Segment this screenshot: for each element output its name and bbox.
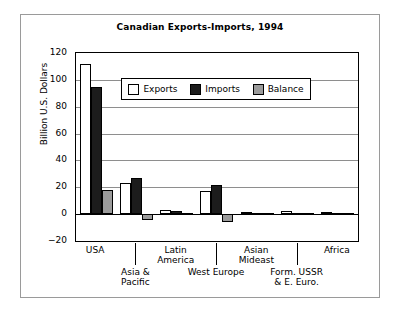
- x-axis-category-labels: USAAsia &PacificLatinAmericaWest EuropeA…: [75, 243, 359, 297]
- chart-figure: Canadian Exports-Imports, 1994 Billion U…: [20, 14, 380, 298]
- legend-label: Balance: [268, 84, 304, 94]
- y-tick-label: 80: [56, 101, 67, 111]
- bar-exports: [200, 191, 211, 214]
- y-axis-tick-labels: 120100806040200−20: [35, 52, 71, 242]
- y-tick-label: −20: [48, 235, 67, 245]
- x-category-label: Asia &Pacific: [121, 267, 150, 287]
- legend-item-imports: Imports: [190, 84, 240, 95]
- legend-swatch-balance-icon: [253, 84, 264, 95]
- bar-exports: [120, 183, 131, 214]
- bar-imports: [211, 185, 222, 215]
- bar-imports: [91, 87, 102, 215]
- x-category-label: Form. USSR& E. Euro.: [270, 267, 323, 287]
- legend-swatch-imports-icon: [190, 84, 201, 95]
- legend-label: Imports: [205, 84, 240, 94]
- y-tick-label: 120: [50, 47, 67, 57]
- legend-item-balance: Balance: [253, 84, 304, 95]
- y-tick-label: 0: [61, 208, 67, 218]
- legend-swatch-exports-icon: [128, 84, 139, 95]
- bar-group: [76, 53, 116, 241]
- x-category-label: LatinAmerica: [157, 245, 194, 265]
- bar-imports: [292, 213, 303, 215]
- bar-exports: [321, 212, 332, 214]
- bar-balance: [263, 213, 274, 215]
- chart-title: Canadian Exports-Imports, 1994: [21, 22, 379, 32]
- y-tick-label: 60: [56, 128, 67, 138]
- x-tick-mark: [135, 243, 136, 265]
- bar-imports: [171, 211, 182, 214]
- bar-imports: [332, 213, 343, 215]
- bar-balance: [182, 213, 193, 215]
- bar-exports: [160, 210, 171, 214]
- bar-exports: [241, 212, 252, 214]
- x-tick-mark: [216, 243, 217, 265]
- x-category-label: USA: [86, 245, 105, 255]
- x-category-label: Africa: [324, 245, 350, 255]
- x-category-label: AsianMideast: [239, 245, 274, 265]
- bar-imports: [131, 178, 142, 214]
- bar-group: [318, 53, 358, 241]
- bar-imports: [252, 213, 263, 215]
- chart-legend: ExportsImportsBalance: [121, 78, 311, 100]
- bar-exports: [80, 64, 91, 214]
- bar-balance: [343, 213, 354, 215]
- bar-balance: [102, 190, 113, 214]
- bar-balance: [303, 213, 314, 215]
- bar-balance: [222, 214, 233, 222]
- y-tick-label: 100: [50, 74, 67, 84]
- y-tick-label: 40: [56, 154, 67, 164]
- bar-exports: [281, 211, 292, 214]
- bar-balance: [142, 214, 153, 219]
- x-tick-mark: [297, 243, 298, 265]
- y-tick-label: 20: [56, 181, 67, 191]
- legend-item-exports: Exports: [128, 84, 177, 95]
- x-category-label: West Europe: [188, 267, 245, 277]
- legend-label: Exports: [143, 84, 177, 94]
